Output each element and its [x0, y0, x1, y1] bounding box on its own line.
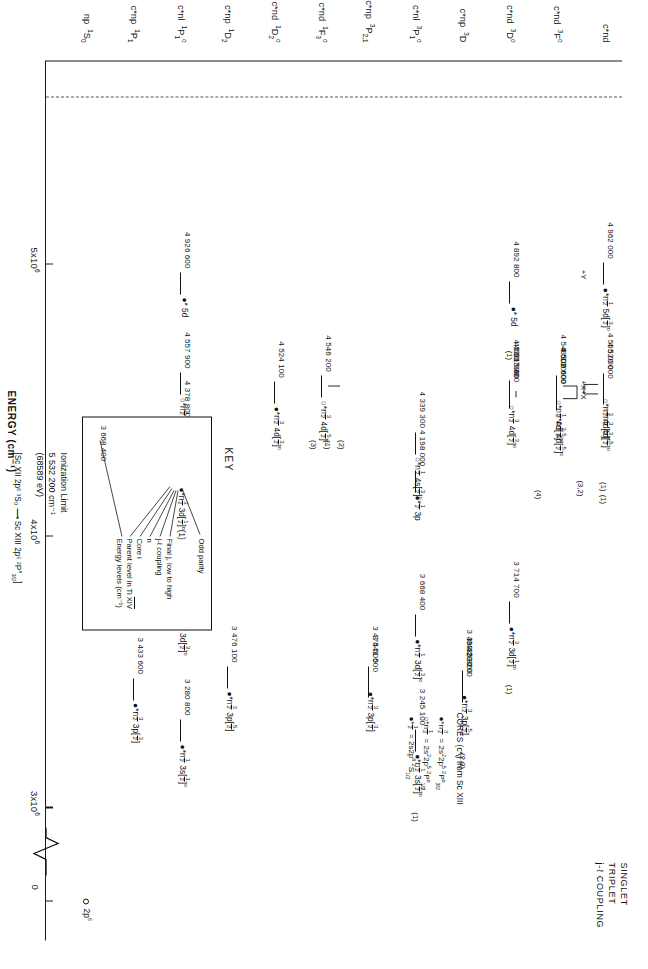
- core-definition-0: ●*n32 = 2s22p5 2Po3/2: [435, 716, 448, 790]
- level-term-label: ○*n32 4d[32]o: [507, 405, 519, 448]
- multiplicity-2-b: (2): [337, 440, 346, 450]
- energy-level-tick: [509, 380, 510, 402]
- key-title: KEY: [223, 447, 234, 471]
- key-item-6: Energy levels (cm⁻¹): [115, 538, 124, 607]
- level-energy-value: 4 524 100: [277, 341, 286, 378]
- column-header-cnp1D2: c*np 1D2: [221, 4, 235, 42]
- ionization-limit-ev: (68589 eV): [34, 452, 46, 515]
- energy-level-tick: [321, 375, 322, 397]
- axis-tick: [46, 806, 53, 807]
- axis-tick-label: 3x106: [29, 790, 41, 815]
- level-energy-value: 4 557 900: [183, 332, 192, 369]
- core-definition-2: ●*12 = 2s2p6 2S1/2: [405, 716, 418, 779]
- plus-x-label-2: +X: [579, 389, 588, 399]
- column-header-cnd3Do: c*nd 3Do: [505, 4, 517, 42]
- column-header-cnp3P21: c*np 3P2,1: [362, 0, 376, 42]
- coupling-legend: SINGLET TRIPLET j-ℓ COUPLING: [594, 862, 630, 928]
- energy-level-tick: [415, 614, 416, 636]
- level-energy-value: 3 280 800: [183, 679, 192, 716]
- key-leader-lines: [84, 416, 212, 628]
- energy-level-diagram: 5x1064x1063x1060 ENERGY (cm⁻¹) np 1S0c*n…: [0, 0, 648, 969]
- axis-tick-label: 5x106: [29, 247, 41, 272]
- level-term-label: ○*n12 4d[52]o: [554, 400, 566, 443]
- key-item-4: Core i: [135, 538, 144, 558]
- level-term-label: ●*n12 3d[32]o: [413, 639, 425, 682]
- legend-jl-coupling: j-ℓ COUPLING: [594, 862, 606, 928]
- legend-triplet: TRIPLET: [606, 862, 618, 928]
- energy-level-tick: [509, 601, 510, 623]
- energy-level-tick: [462, 680, 463, 702]
- axis-tick: [46, 263, 53, 264]
- level-energy-value: 3 668 400: [418, 573, 427, 610]
- key-item-1: Final j, low to high: [165, 538, 174, 599]
- ionization-limit-dashed-line: [46, 96, 622, 97]
- level-term-label: ○*n12 4s[32]o: [413, 457, 425, 500]
- level-energy-value: 4 339 300: [418, 391, 427, 428]
- level-energy-value: 4 962 000: [606, 222, 615, 259]
- ionization-limit-label: Ionization Limit: [58, 452, 70, 515]
- level-term-label: ●*n32 3d[12]o: [507, 626, 519, 669]
- column-header-cnl3P1o: c*nl 3P1o: [409, 5, 423, 42]
- multiplicity-1-f: (1): [323, 440, 332, 450]
- energy-level-tick: [180, 272, 181, 294]
- level-term-label: ●*n12 5d[32]o: [601, 287, 613, 330]
- core-definition-1: ○*n12 = 2s22p5 2Po1/2: [420, 716, 433, 790]
- column-header-cnp3D: c*np 3D: [458, 8, 470, 42]
- level-term-label: ●* 5d: [180, 297, 190, 317]
- axis-break-zigzag: [30, 827, 60, 887]
- level-energy-value: 4 555 000: [606, 332, 615, 369]
- column-header-cnd1D2o: c*nd 1D2o: [268, 1, 282, 42]
- ionization-limit-block: Ionization Limit 5 532 200 cm⁻¹ (68589 e…: [34, 452, 70, 515]
- cores-heading: CORES (c*ⱼ) from Sc XIII: [455, 712, 465, 804]
- level-energy-value: 3 441 500: [371, 635, 380, 672]
- ionization-limit-value: 5 532 200 cm⁻¹: [46, 452, 58, 515]
- level-term-label: ●*n32 3p[52]: [225, 691, 237, 731]
- column-header-cnl1P1o: c*nl 1P1o: [174, 5, 188, 42]
- level-energy-value: 3 476 100: [230, 626, 239, 663]
- axis-tick-label: 4x106: [29, 519, 41, 544]
- level-energy-value: 3 714 700: [512, 561, 521, 598]
- energy-level-tick: [509, 281, 510, 303]
- multiplicity-1-b: (1): [599, 482, 608, 492]
- axis-tick: [46, 535, 53, 536]
- axis-tick: [46, 900, 53, 901]
- multiplicity-1-e: (1): [411, 812, 420, 822]
- key-item-5: Parent level in Ti XIV: [125, 538, 134, 609]
- column-header-np1S0: np 1S0: [80, 13, 94, 42]
- multiplicity-3-b: (3): [309, 440, 318, 450]
- key-item-2: j-ℓ coupling: [155, 538, 164, 575]
- energy-level-tick: [556, 375, 557, 397]
- level-energy-value: 3 433 600: [136, 637, 145, 674]
- energy-level-tick: [180, 719, 181, 741]
- key-item-0: Odd parity: [197, 538, 206, 573]
- level-term-label: ○*n32 4d[52]o: [319, 400, 331, 443]
- level-energy-value: 4 892 800: [512, 241, 521, 278]
- level-term-label: ●*n12 3s[12]o: [178, 744, 190, 787]
- level-term-label: ○*n32 4d[32]o: [601, 398, 613, 441]
- level-energy-value: 4 546 200: [324, 335, 333, 372]
- legend-singlet: SINGLET: [618, 862, 630, 928]
- energy-level-tick: [415, 432, 416, 454]
- ionization-transition: [Sc XII 2p⁶ ¹S₀ ⟶ Sc XIII 2p⁵ ²P°3/2]: [11, 452, 23, 583]
- energy-level-tick: [274, 381, 275, 403]
- plus-y-label: +Y: [579, 269, 588, 279]
- level-term-label: ●*n32 4d[32]o: [272, 406, 284, 449]
- key-item-3: n: [145, 538, 154, 542]
- column-header-cnd3Fo: c*nd 3Fo: [552, 6, 564, 43]
- level-energy-value: 4 926 600: [183, 231, 192, 268]
- level-energy-value: 3 423 200: [465, 640, 474, 677]
- column-header-cnp1P1: c*np 1P1: [127, 5, 141, 42]
- energy-level-tick: [603, 262, 604, 284]
- plus-x-label-1: +X: [579, 380, 588, 390]
- column-header-cnd: c*nd: [601, 23, 611, 42]
- multiplicity-1-d: (1): [505, 684, 514, 694]
- energy-level-tick: [133, 678, 134, 700]
- y-axis-line: [46, 60, 622, 61]
- column-header-cnd1F3o: c*nd 1F3o: [315, 2, 329, 42]
- energy-level-tick: [180, 372, 181, 394]
- level-term: 2p6: [82, 908, 93, 921]
- ground-state-marker: [83, 898, 89, 904]
- multiplicity-1-a: (1): [599, 494, 608, 504]
- level-term-label: ●* 5d: [509, 306, 519, 326]
- energy-level-tick: [603, 373, 604, 395]
